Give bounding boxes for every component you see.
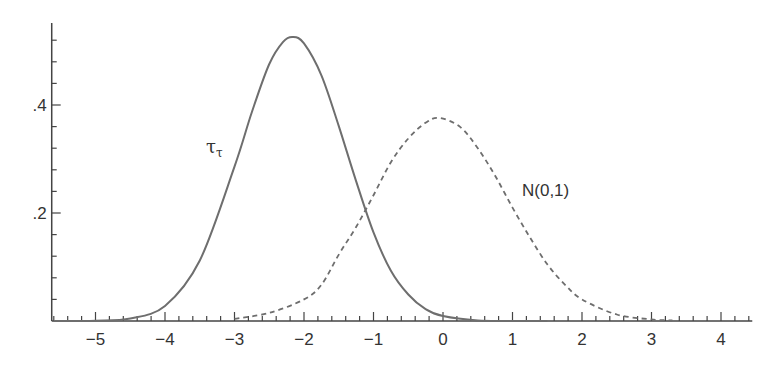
density-chart: −5−4−3−2−101234.2.4 ττ N(0,1) <box>0 0 774 373</box>
x-tick-label: 1 <box>508 330 517 349</box>
tau-label-main: τ <box>206 136 216 157</box>
tau-curve-label: ττ <box>206 136 223 160</box>
x-tick-label: 2 <box>577 330 586 349</box>
x-tick-label: 0 <box>438 330 447 349</box>
x-tick-label: −1 <box>364 330 383 349</box>
x-tick-label: 4 <box>716 330 725 349</box>
normal-curve-label: N(0,1) <box>522 181 569 200</box>
axes: −5−4−3−2−101234.2.4 <box>33 23 753 349</box>
plot-area <box>54 37 673 321</box>
tau-density-curve <box>54 37 548 321</box>
x-tick-label: −3 <box>225 330 244 349</box>
x-tick-label: 3 <box>647 330 656 349</box>
x-tick-label: −4 <box>155 330 174 349</box>
tau-label-subscript: τ <box>216 146 223 160</box>
normal-density-curve <box>235 118 673 321</box>
y-tick-label: .4 <box>33 96 47 115</box>
x-tick-label: −5 <box>86 330 105 349</box>
x-tick-label: −2 <box>294 330 313 349</box>
y-tick-label: .2 <box>33 204 47 223</box>
